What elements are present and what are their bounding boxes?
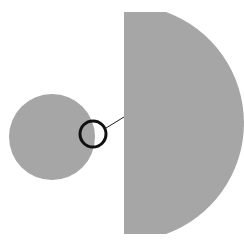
large-circle-segment: [124, 12, 244, 234]
diagram-canvas: [0, 0, 244, 243]
leader-line: [106, 117, 124, 128]
small-circle: [9, 94, 95, 180]
